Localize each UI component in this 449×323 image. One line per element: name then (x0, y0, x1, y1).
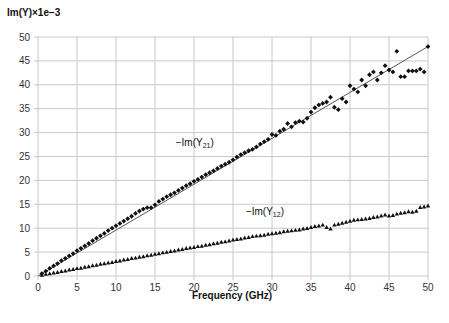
y12-point (371, 215, 375, 219)
y12-point (289, 228, 293, 232)
y21-point (285, 121, 290, 126)
chart: Im(Y)×1e−3 05101520253035404550 05101520… (0, 0, 449, 323)
y12-point (270, 231, 274, 235)
x-tick-label: 45 (383, 282, 395, 293)
y21-point (133, 211, 138, 216)
y12-point (317, 224, 321, 228)
y21-point (391, 69, 396, 74)
y-tick-label: 35 (19, 103, 31, 114)
y12-point (94, 263, 98, 267)
y21-point (375, 78, 380, 83)
y12-point (282, 229, 286, 233)
y12-point (360, 217, 364, 221)
y21-point (160, 197, 165, 202)
y12-point (211, 241, 215, 245)
y12-point (90, 263, 94, 267)
y12-point (227, 238, 231, 242)
y12-point (274, 231, 278, 235)
y21-point (359, 78, 364, 83)
y21-point (371, 69, 376, 74)
y-tick-label: 0 (24, 271, 30, 282)
y21-point (309, 110, 314, 115)
y12-point (200, 244, 204, 248)
y21-point (118, 221, 123, 226)
y21-point (414, 69, 419, 74)
x-tick-label: 15 (149, 282, 161, 293)
y12-point (418, 205, 422, 209)
y12-point (102, 261, 106, 265)
y12-point (246, 235, 250, 239)
y-tick-labels: 05101520253035404550 (19, 32, 31, 282)
y21-point (90, 238, 95, 243)
y12-point (168, 249, 172, 253)
y-axis-title: Im(Y)×1e−3 (7, 7, 61, 18)
y21-point (98, 233, 103, 238)
y21-point (242, 150, 247, 155)
y21-point (293, 120, 298, 125)
y12-point (126, 257, 130, 261)
y12-point (356, 217, 360, 221)
y12-point (391, 213, 395, 217)
y21-point (426, 44, 431, 49)
y12-point (321, 223, 325, 227)
y12-point (278, 230, 282, 234)
label-subscript: 12 (273, 211, 281, 218)
y21-point (102, 231, 107, 236)
y21-point (211, 168, 216, 173)
label-main: −Im(Y (176, 137, 203, 148)
y12-point (363, 216, 367, 220)
y12-point (406, 209, 410, 213)
y12-point (285, 229, 289, 233)
y12-point (204, 243, 208, 247)
y-tick-label: 45 (19, 55, 31, 66)
y-tick-label: 10 (19, 223, 31, 234)
y12-point (235, 237, 239, 241)
y-tick-label: 50 (19, 32, 31, 43)
y12-point (231, 237, 235, 241)
y21-point (129, 214, 134, 219)
y-tick-label: 15 (19, 199, 31, 210)
y-tick-label: 5 (24, 247, 30, 258)
y21-point (266, 137, 271, 142)
y12-point (367, 216, 371, 220)
y12-point (387, 214, 391, 218)
y12-point (243, 236, 247, 240)
y12-point (309, 225, 313, 229)
y21-point (231, 157, 236, 162)
y21-point (63, 256, 68, 261)
label-main: −Im(Y (246, 206, 273, 217)
y12-point (129, 256, 133, 260)
y-tick-label: 20 (19, 175, 31, 186)
y12-point (207, 242, 211, 246)
y12-point (402, 210, 406, 214)
y12-point (266, 232, 270, 236)
y21-point (106, 228, 111, 233)
y21-point (320, 101, 325, 106)
y21-point (149, 205, 154, 210)
y12-point (188, 246, 192, 250)
y12-point (172, 248, 176, 252)
y12-point (332, 223, 336, 227)
y12-point (250, 234, 254, 238)
y21-point (336, 107, 341, 112)
y12-point (336, 222, 340, 226)
y12-point (192, 245, 196, 249)
y12-point (223, 239, 227, 243)
y12-point (176, 248, 180, 252)
y12-point (379, 214, 383, 218)
y12-point (348, 219, 352, 223)
y21-point (157, 199, 162, 204)
y21-point (316, 102, 321, 107)
label-subscript: 21 (203, 142, 211, 149)
series-label-y21: −Im(Y21) (176, 137, 214, 149)
y12-point (215, 241, 219, 245)
y21-point (355, 90, 360, 95)
y12-point (344, 220, 348, 224)
y21-point (422, 69, 427, 74)
y21-point (110, 226, 115, 231)
y21-point (168, 192, 173, 197)
y12-point (258, 233, 262, 237)
y-tick-label: 40 (19, 79, 31, 90)
y12-point (63, 269, 67, 273)
y21-point (348, 83, 353, 88)
